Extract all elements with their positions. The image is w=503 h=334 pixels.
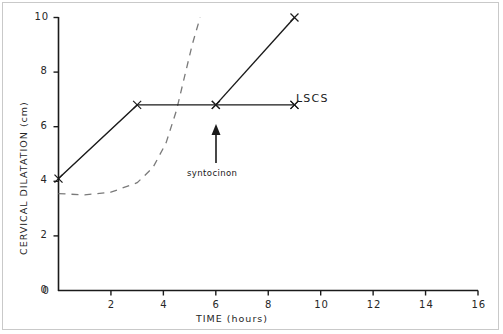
section-progress-line <box>216 18 295 105</box>
x-tick-label-12: 12 <box>367 299 382 310</box>
partogram-plot <box>0 0 503 334</box>
y-tick-label-10: 10 <box>35 11 50 22</box>
y-tick-label-8: 8 <box>41 65 48 76</box>
y-tick-label-2: 2 <box>41 229 48 240</box>
x-tick-label-4: 4 <box>160 299 167 310</box>
x-tick-label-2: 2 <box>108 299 115 310</box>
x-tick-label-8: 8 <box>265 299 272 310</box>
lscs-annotation-label: LSCS <box>296 92 329 105</box>
x-tick-label-0: 0 <box>43 285 50 296</box>
axes-lines <box>58 17 478 291</box>
x-axis-title: TIME (hours) <box>196 313 268 324</box>
chart-figure: CERVICAL DILATATION (cm) TIME (hours) sy… <box>0 0 503 334</box>
x-tick-label-6: 6 <box>213 299 220 310</box>
syntocinon-arrow-icon <box>212 124 221 163</box>
x-tick-label-10: 10 <box>314 299 329 310</box>
y-tick-label-6: 6 <box>41 120 48 131</box>
observed-progress-line <box>59 105 295 179</box>
y-tick-label-4: 4 <box>41 174 48 185</box>
expected-progress-curve <box>59 18 201 195</box>
x-tick-label-14: 14 <box>419 299 434 310</box>
y-axis-title: CERVICAL DILATATION (cm) <box>18 101 29 255</box>
x-tick-label-16: 16 <box>472 299 487 310</box>
data-point-markers <box>55 14 299 183</box>
syntocinon-annotation-label: syntocinon <box>187 168 237 178</box>
